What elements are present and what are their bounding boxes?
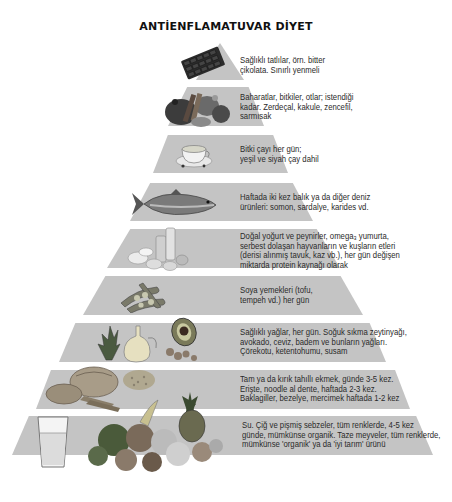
tier-5-line-4: miktarda protein kaynağı olarak xyxy=(240,261,400,271)
diagram-title: ANTİENFLAMATUVAR DİYET xyxy=(0,20,452,33)
tier-8-label: Tam ya da kırık tahıllı ekmek, günde 3-5… xyxy=(240,375,399,404)
tier-5-label: Doğal yoğurt ve peynirler, omega₃ yumurt… xyxy=(240,232,400,270)
soybeans-icon xyxy=(117,279,173,313)
tier-9-line-3: mümkünse 'organik' ya da 'iyi tarım' ürü… xyxy=(242,440,440,450)
tier-4-line-2: ürünleri: somon, sardalye, karides vd. xyxy=(240,203,370,213)
water-glass-icon xyxy=(36,415,70,469)
tier-7-label: Sağlıklı yağlar, her gün. Soğuk sıkma ze… xyxy=(240,328,407,357)
tier-6-label: Soya yemekleri (tofu, tempeh vd.) her gü… xyxy=(240,286,313,305)
tier-3-label: Bitki çayı her gün; yeşil ve siyah çay d… xyxy=(240,145,319,164)
tier-2-label: Baharatlar, bitkiler, otlar; istendiği k… xyxy=(240,93,353,122)
dark-chocolate-icon xyxy=(178,46,228,80)
spices-icon xyxy=(163,84,233,130)
tier-7-line-3: Çörekotu, ketentohumu, susam xyxy=(240,347,407,357)
tier-1-label: Sağlıklı tatlılar, örn. bitter çikolata.… xyxy=(240,56,325,75)
tier-8-line-3: Baklagiller, bezelye, mercimek haftada 1… xyxy=(240,394,399,404)
tier-9-label: Su. Çiğ ve pişmiş sebzeler, tüm renklerd… xyxy=(242,421,440,450)
tier-4-label: Haftada iki kez balık ya da diğer deniz … xyxy=(240,193,370,212)
dairy-eggs-icon xyxy=(126,224,196,272)
olive-oil-avocado-icon xyxy=(84,316,209,366)
fish-icon xyxy=(130,187,220,221)
vegetables-fruits-icon xyxy=(78,382,224,472)
tier-1-line-2: çikolata. Sınırlı yenmeli xyxy=(240,66,325,76)
tier-2-line-3: sarmısak xyxy=(240,112,353,122)
tea-cup-icon xyxy=(174,139,214,169)
tier-3-line-2: yeşil ve siyah çay dahil xyxy=(240,155,319,165)
tier-6-line-2: tempeh vd.) her gün xyxy=(240,296,313,306)
